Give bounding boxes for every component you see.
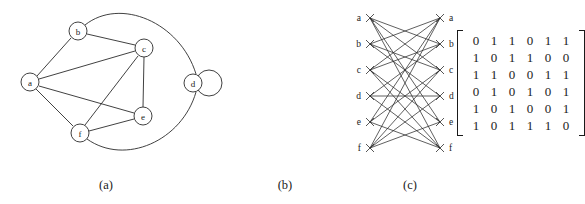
panel-bipartite: a b c d e f a b c d e f: [345, 0, 471, 172]
matrix-cell: 1: [503, 32, 521, 49]
matrix-cell: 1: [485, 32, 503, 49]
bip-left-label-a: a: [357, 13, 362, 23]
bipartite-right-nodes: [436, 14, 444, 152]
edge-c-f: [85, 56, 138, 125]
bip-left-label-c: c: [357, 65, 361, 75]
matrix-cell: 1: [485, 66, 503, 83]
bip-right-label-c: c: [449, 65, 453, 75]
bip-right-label-f: f: [449, 143, 453, 153]
bip-left-label-d: d: [356, 91, 361, 101]
graph-svg: a b c d e f: [0, 0, 225, 172]
matrix-cell: 1: [521, 83, 539, 100]
edge-b-c: [87, 34, 135, 45]
matrix-cell: 1: [539, 32, 557, 49]
matrix-cell: 0: [485, 117, 503, 134]
bipartite-edges: [370, 18, 440, 148]
edge-a-c: [39, 51, 135, 79]
node-f-label: f: [79, 129, 82, 139]
matrix-cell: 0: [521, 32, 539, 49]
matrix-right-bracket: [578, 30, 585, 136]
bipartite-left-labels: a b c d e f: [356, 13, 362, 153]
edge-a-e: [39, 86, 134, 113]
adjacency-matrix: 0 1 1 0 1 1 1 0 1 1 0 0 1 1 0 0 1 1 0 1: [457, 30, 585, 136]
matrix-cell: 1: [557, 32, 575, 49]
caption-a: (a): [0, 178, 212, 193]
matrix-cell: 1: [557, 83, 575, 100]
node-a-label: a: [28, 78, 32, 88]
caption-c: (c): [355, 178, 465, 193]
node-b-label: b: [76, 27, 81, 37]
node-c-label: c: [142, 44, 146, 54]
bipartite-left-nodes: [366, 14, 374, 152]
matrix-cell: 0: [503, 83, 521, 100]
matrix-cell: 1: [503, 49, 521, 66]
panel-matrix: 0 1 1 0 1 1 1 0 1 1 0 0 1 1 0 0 1 1 0 1: [225, 0, 345, 172]
node-e-label: e: [141, 112, 145, 122]
matrix-cell: 1: [557, 100, 575, 117]
caption-b: (b): [225, 178, 345, 193]
bipartite-svg: a b c d e f a b c d e f: [345, 0, 471, 172]
bip-left-label-f: f: [358, 143, 362, 153]
matrix-cell: 1: [521, 117, 539, 134]
bip-left-label-e: e: [357, 117, 361, 127]
matrix-cell: 0: [503, 66, 521, 83]
matrix-cell: 1: [539, 117, 557, 134]
bipartite-right-labels: a b c d e f: [449, 13, 454, 153]
matrix-cell: 1: [503, 100, 521, 117]
matrix-cell: 1: [521, 49, 539, 66]
bip-left-label-b: b: [356, 39, 361, 49]
bip-right-label-e: e: [449, 117, 453, 127]
node-d-label: d: [191, 79, 196, 89]
matrix-cell: 0: [557, 49, 575, 66]
matrix-cell: 0: [521, 100, 539, 117]
matrix-cell: 0: [485, 100, 503, 117]
matrix-cell: 1: [485, 83, 503, 100]
bip-right-label-d: d: [449, 91, 454, 101]
matrix-cell: 0: [521, 66, 539, 83]
matrix-cell: 0: [557, 117, 575, 134]
matrix-cell: 0: [539, 100, 557, 117]
edge-c-e: [143, 57, 144, 107]
matrix-cell: 1: [539, 66, 557, 83]
matrix-cell: 0: [485, 49, 503, 66]
matrix-cell: 0: [539, 49, 557, 66]
edge-e-f: [89, 119, 134, 131]
matrix-grid: 0 1 1 0 1 1 1 0 1 1 0 0 1 1 0 0 1 1 0 1: [464, 30, 578, 136]
edge-a-b: [37, 38, 71, 76]
matrix-cell: 1: [557, 66, 575, 83]
panel-graph: a b c d e f: [0, 0, 225, 172]
matrix-cell: 0: [539, 83, 557, 100]
bip-right-label-b: b: [449, 39, 454, 49]
bip-right-label-a: a: [449, 13, 454, 23]
matrix-cell: 1: [503, 117, 521, 134]
